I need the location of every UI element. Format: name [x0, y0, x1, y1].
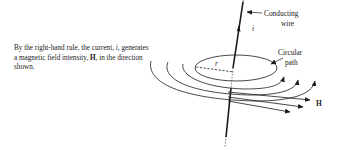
conducting-label-line1: Conducting	[264, 9, 299, 18]
right-hand-rule-diagram: Conducting wire i r Circular path H	[0, 0, 339, 150]
circular-path-pointer	[271, 58, 283, 64]
conducting-wire-pointer	[247, 12, 262, 13]
circular-label-line1: Circular	[278, 48, 303, 57]
wire-bottom-dashed	[225, 136, 226, 147]
circular-path-ellipse	[195, 55, 277, 81]
wire-dashed-extension	[231, 68, 233, 88]
conducting-wire	[233, 2, 243, 68]
conducting-wire-lower	[226, 88, 231, 137]
radius-label: r	[215, 59, 218, 68]
circular-label-line2: path	[285, 58, 298, 67]
current-label: i	[252, 24, 254, 33]
field-label: H	[316, 99, 322, 108]
conducting-label-line2: wire	[281, 19, 295, 28]
